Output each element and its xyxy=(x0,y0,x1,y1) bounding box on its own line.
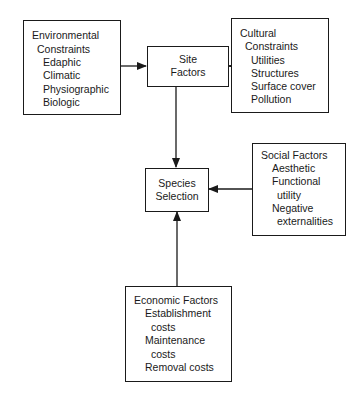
box-subtitle: Constraints xyxy=(245,40,298,53)
list-item: Functional xyxy=(272,175,320,188)
environmental-constraints-box: Environmental Constraints Edaphic Climat… xyxy=(23,20,121,115)
list-item-continued: costs xyxy=(151,321,176,334)
list-item: Edaphic xyxy=(43,56,81,69)
box-title: Cultural xyxy=(240,27,276,40)
social-factors-box: Social Factors Aesthetic Functional util… xyxy=(252,143,346,236)
list-item: Surface cover xyxy=(251,80,316,93)
list-item-continued: utility xyxy=(277,189,301,202)
box-label: Factors xyxy=(148,66,228,79)
list-item-continued: costs xyxy=(151,348,176,361)
box-title: Environmental xyxy=(32,29,99,42)
box-title: Economic Factors xyxy=(134,294,218,307)
box-title: Social Factors xyxy=(261,149,328,162)
cultural-constraints-box: Cultural Constraints Utilities Structure… xyxy=(231,18,329,113)
box-label: Site xyxy=(148,53,228,66)
list-item: Physiographic xyxy=(43,83,109,96)
list-item: Negative xyxy=(272,202,313,215)
list-item: Structures xyxy=(251,67,299,80)
list-item: Utilities xyxy=(251,54,285,67)
list-item: Pollution xyxy=(251,93,291,106)
species-selection-box: Species Selection xyxy=(145,168,209,212)
site-factors-box: Site Factors xyxy=(147,46,229,87)
list-item: Aesthetic xyxy=(272,162,315,175)
list-item: Biologic xyxy=(43,96,80,109)
box-label: Species xyxy=(146,177,208,190)
list-item: Removal costs xyxy=(145,361,214,374)
list-item: Establishment xyxy=(145,307,211,320)
box-subtitle: Constraints xyxy=(37,43,90,56)
box-label: Selection xyxy=(146,190,208,203)
economic-factors-box: Economic Factors Establishment costs Mai… xyxy=(125,286,232,382)
list-item-continued: externalities xyxy=(277,215,333,228)
list-item: Climatic xyxy=(43,69,80,82)
list-item: Maintenance xyxy=(145,334,205,347)
